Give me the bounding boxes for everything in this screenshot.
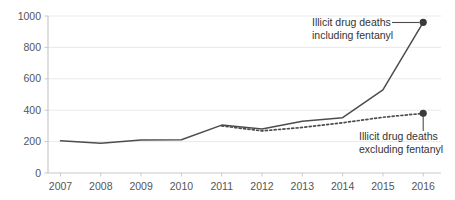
x-label-2014: 2014: [331, 180, 355, 192]
x-label-2010: 2010: [170, 180, 194, 192]
x-label-2013: 2013: [291, 180, 315, 192]
chart-svg: 1000 800 600 400 200 0 2007 2008 2009 20…: [0, 0, 455, 200]
annotation-excluding-fentanyl: Illicit drug deaths excluding fentanyl: [359, 130, 443, 155]
y-axis-labels: 1000 800 600 400 200 0: [18, 10, 42, 179]
x-label-2015: 2015: [371, 180, 395, 192]
x-label-2009: 2009: [129, 180, 153, 192]
x-axis-labels: 2007 2008 2009 2010 2011 2012 2013 2014 …: [49, 180, 435, 192]
x-label-2016: 2016: [412, 180, 436, 192]
annotation-including-fentanyl: Illicit drug deaths including fentanyl: [312, 16, 393, 41]
endpoint-marker-including-fentanyl: [420, 19, 427, 26]
annotation-including-line1: Illicit drug deaths: [312, 16, 391, 28]
line-chart: 1000 800 600 400 200 0 2007 2008 2009 20…: [0, 0, 455, 200]
x-label-2008: 2008: [89, 180, 113, 192]
y-label-200: 200: [23, 135, 41, 147]
annotation-including-line2: including fentanyl: [312, 29, 393, 41]
x-label-2012: 2012: [250, 180, 274, 192]
x-label-2007: 2007: [49, 180, 73, 192]
endpoint-marker-excluding-fentanyl: [420, 110, 427, 117]
y-label-400: 400: [23, 104, 41, 116]
y-label-600: 600: [23, 72, 41, 84]
y-label-0: 0: [35, 167, 41, 179]
x-label-2011: 2011: [210, 180, 233, 192]
annotation-excluding-line2: excluding fentanyl: [359, 143, 443, 155]
y-label-1000: 1000: [18, 10, 42, 22]
y-label-800: 800: [23, 41, 41, 53]
annotation-excluding-line1: Illicit drug deaths: [359, 130, 438, 142]
